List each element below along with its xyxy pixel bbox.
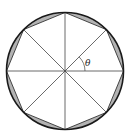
circle-octagon-diagram: θ — [0, 0, 130, 131]
theta-label: θ — [85, 58, 91, 68]
